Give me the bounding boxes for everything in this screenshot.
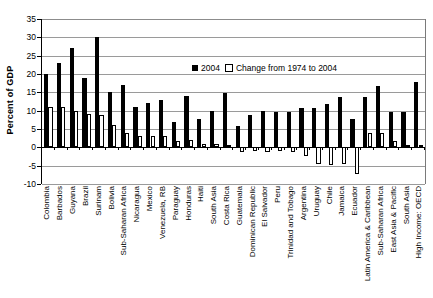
x-axis-label: Venezuela, RB — [156, 186, 169, 298]
bar-group — [297, 19, 310, 184]
x-axis-label: East Asia & Pacific — [387, 186, 400, 298]
bar-2004 — [338, 97, 342, 148]
bar-group — [170, 19, 183, 184]
bar-change — [240, 147, 244, 152]
bar-group — [119, 19, 132, 184]
x-axis-label: Trinidad and Tobago — [285, 186, 298, 298]
x-axis-label: South Asia — [400, 186, 413, 298]
x-axis-label: Haiti — [195, 186, 208, 298]
bar-group — [272, 19, 285, 184]
bar-group — [310, 19, 323, 184]
x-axis-label: Dominican Republic — [246, 186, 259, 298]
bar-2004 — [236, 126, 240, 147]
bar-group — [323, 19, 336, 184]
y-axis-tick — [37, 111, 41, 112]
bar-group — [246, 19, 259, 184]
bar-group — [221, 19, 234, 184]
x-axis-label: Bolivia — [105, 186, 118, 298]
y-axis-tick — [37, 19, 41, 20]
y-axis-tick — [37, 37, 41, 38]
plot-frame — [41, 19, 426, 184]
bar-change — [406, 145, 410, 147]
bar-change — [316, 147, 320, 164]
y-axis-title: Percent of GDP — [2, 40, 18, 160]
bar-change — [176, 141, 180, 148]
bar-change — [329, 147, 333, 164]
bar-group — [195, 19, 208, 184]
legend-marker-filled-square — [192, 65, 198, 71]
bar-group — [208, 19, 221, 184]
y-axis-tick-label: -10 — [24, 179, 36, 189]
x-axis-label: Chile — [323, 186, 336, 298]
legend-label: Change from 1974 to 2004 — [236, 63, 337, 73]
bar-change — [265, 147, 269, 152]
x-axis-label: Paraguay — [169, 186, 182, 298]
bar-group — [131, 19, 144, 184]
x-axis-label: Nicaragua — [131, 186, 144, 298]
bar-change — [342, 147, 346, 164]
bar-change — [368, 133, 372, 147]
bar-change — [227, 145, 231, 148]
chart-legend: 2004 Change from 1974 to 2004 — [189, 62, 340, 74]
bar-group — [182, 19, 195, 184]
x-axis-label: Argentina — [298, 186, 311, 298]
bar-2004 — [248, 115, 252, 147]
bar-2004 — [223, 93, 227, 147]
bar-series-group — [42, 19, 425, 184]
x-axis-label: El Salvador — [259, 186, 272, 298]
x-axis-label: Barbados — [54, 186, 67, 298]
x-axis-label: Sub-Saharan Africa — [375, 186, 388, 298]
y-axis-tick-label: 25 — [27, 51, 36, 61]
x-axis-tick — [424, 147, 425, 150]
y-axis-tick-label: -5 — [28, 161, 36, 171]
bar-2004 — [312, 108, 316, 147]
x-axis-label: Brazil — [79, 186, 92, 298]
x-axis-labels: ColombiaBarbadosGuyanaBrazilSurinamBoliv… — [41, 186, 426, 298]
y-axis-tick-label: 0 — [31, 142, 36, 152]
bar-2004 — [325, 104, 329, 147]
bar-change — [380, 133, 384, 147]
y-axis-tick-label: 30 — [27, 32, 36, 42]
bar-2004 — [210, 111, 214, 147]
y-axis-tick-label: 20 — [27, 69, 36, 79]
bar-2004 — [274, 112, 278, 148]
bar-group — [233, 19, 246, 184]
bar-group — [399, 19, 412, 184]
bar-group — [361, 19, 374, 184]
y-axis-tick — [37, 147, 41, 148]
bar-group — [387, 19, 400, 184]
bar-change — [125, 133, 129, 148]
y-axis-tick — [37, 184, 41, 185]
bar-change — [74, 111, 78, 148]
bar-2004 — [350, 119, 354, 147]
bar-change — [393, 141, 397, 148]
bar-group — [285, 19, 298, 184]
x-axis-label: Costa Rica — [221, 186, 234, 298]
bar-group — [348, 19, 361, 184]
bar-change — [355, 147, 359, 173]
bar-group — [68, 19, 81, 184]
bar-change — [291, 147, 295, 151]
bar-change — [87, 114, 91, 147]
legend-item-change: Change from 1974 to 2004 — [225, 63, 337, 73]
bar-change — [48, 107, 52, 147]
legend-marker-open-square — [225, 64, 233, 72]
y-axis-tick — [37, 129, 41, 130]
x-axis-label: Latin America & Caribbean — [362, 186, 375, 298]
x-axis-label: Jamaica — [336, 186, 349, 298]
bar-group — [412, 19, 425, 184]
bar-2004 — [261, 111, 265, 147]
bar-group — [259, 19, 272, 184]
y-axis-tick — [37, 92, 41, 93]
bar-group — [93, 19, 106, 184]
bar-group — [336, 19, 349, 184]
plot-area: 35302520151050-5-10 2004 Change from 197… — [41, 19, 426, 184]
bar-change — [189, 140, 193, 147]
legend-label: 2004 — [201, 63, 220, 73]
x-axis-label: Peru — [272, 186, 285, 298]
bar-change — [202, 144, 206, 147]
x-axis-label: South Asia — [208, 186, 221, 298]
y-axis-tick-label: 35 — [27, 14, 36, 24]
bar-group — [80, 19, 93, 184]
bar-change — [304, 147, 308, 156]
